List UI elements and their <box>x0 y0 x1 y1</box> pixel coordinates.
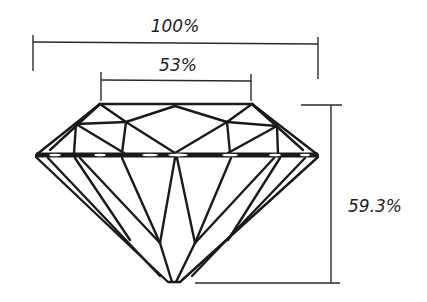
upper-girdle-right <box>227 122 277 126</box>
pavilion-line <box>48 158 160 276</box>
pavilion-main-right <box>177 158 195 243</box>
pavilion-line <box>80 158 160 243</box>
upper-girdle-left <box>76 122 126 124</box>
girdle-highlight <box>222 154 238 157</box>
crown-outline <box>36 104 318 155</box>
table-width-label: 53% <box>159 55 197 75</box>
diamond-girdle <box>36 154 318 157</box>
kite-right-vertical <box>227 122 230 153</box>
total-width-line <box>33 42 318 44</box>
kite-lower <box>126 122 227 153</box>
pavilion-main-left <box>160 158 175 243</box>
pavilion-line <box>122 158 160 243</box>
total-width-label: 100% <box>151 16 200 36</box>
crown-edge-left <box>76 104 100 124</box>
star-facets <box>100 104 252 122</box>
diamond-proportion-diagram: 100% 53% 59.3% <box>0 0 427 302</box>
diamond-crown <box>36 104 318 155</box>
girdle-highlight <box>300 154 310 157</box>
table-width-dimension: 53% <box>101 55 251 101</box>
girdle-highlight <box>94 154 106 157</box>
total-depth-label: 59.3% <box>348 196 402 216</box>
crown-edge-right <box>252 104 277 126</box>
pavilion-line <box>192 158 305 276</box>
pavilion-outline <box>36 157 318 282</box>
pavilion-line <box>195 158 231 243</box>
diamond-pavilion <box>36 157 318 282</box>
kite-left-vertical <box>122 122 126 153</box>
girdle-highlight <box>168 154 188 157</box>
pavilion-line <box>75 158 130 240</box>
girdle-highlight <box>142 154 158 157</box>
girdle-highlight <box>269 154 281 157</box>
table-width-line <box>101 80 251 81</box>
bezel-diag-right <box>228 126 277 153</box>
bezel-diag-left <box>76 124 124 153</box>
girdle-highlight <box>49 154 61 157</box>
bezel-edge-right <box>277 126 278 154</box>
total-depth-dimension: 59.3% <box>195 105 402 283</box>
